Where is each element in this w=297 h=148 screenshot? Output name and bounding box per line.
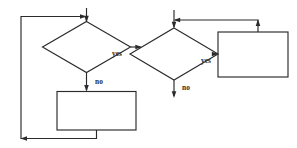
left-no-label: no: [95, 77, 103, 86]
left-yes-label: yes: [112, 49, 122, 58]
right-no-label: no: [182, 83, 190, 92]
right-yes-label: yes: [201, 56, 211, 65]
right-no-arrowhead: [172, 91, 177, 98]
left-diagram: yes no: [21, 8, 143, 141]
right-decision-diamond: [130, 28, 218, 80]
left-decision-diamond: [43, 22, 131, 73]
right-diagram: yes no: [130, 10, 288, 98]
flowchart-figure: yes no yes: [0, 0, 297, 148]
left-no-arrowhead: [84, 85, 89, 92]
right-feedback-edge: [175, 20, 258, 32]
left-process-box: [57, 92, 136, 131]
left-feedback-edge: [21, 17, 97, 139]
right-process-box: [218, 32, 288, 77]
flowchart-canvas: yes no yes: [0, 0, 297, 148]
